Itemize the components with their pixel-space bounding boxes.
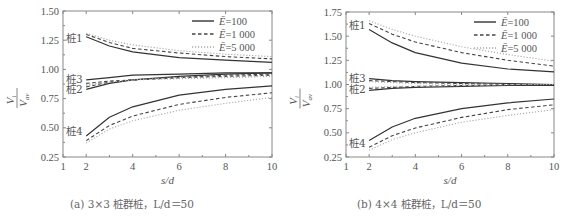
svg-text:Vav: Vav (300, 93, 314, 107)
svg-text:Vi: Vi (4, 96, 18, 105)
series-line-dotted (86, 97, 272, 143)
y-tick-label: 1.75 (324, 7, 342, 18)
x-tick-label: 10 (267, 161, 278, 172)
svg-text:Vi: Vi (287, 96, 301, 105)
x-tick-label: 6 (176, 161, 181, 172)
y-axis-title: ViVav (4, 88, 31, 108)
caption-b: (b) 4×4 桩群桩，L/d＝50 (357, 196, 481, 211)
pile-label: 桩4 (66, 125, 83, 137)
x-tick-label: 2 (366, 161, 371, 172)
pile-label: 桩2 (66, 83, 83, 95)
x-tick-label: 8 (223, 161, 228, 172)
y-tick-label: 1.50 (324, 31, 342, 42)
pile-label: 桩3 (349, 72, 366, 84)
y-tick-label: 0.50 (41, 122, 59, 133)
x-tick-label: 6 (459, 161, 464, 172)
pile-label: 桩1 (349, 19, 366, 31)
pile-label: 桩2 (349, 83, 366, 95)
y-tick-label: 1.00 (324, 79, 342, 90)
legend-label: Ē=100 (500, 17, 529, 28)
x-tick-label: 1 (60, 161, 65, 172)
series-line-dashed (369, 105, 554, 148)
pile-label: 桩1 (66, 32, 83, 44)
x-tick-label: 2 (84, 161, 89, 172)
legend-label: Ē=100 (218, 16, 247, 27)
chart-panel-b: 0.250.500.751.001.251.501.751246810s/dVi… (287, 7, 559, 187)
y-tick-label: 0.50 (324, 127, 342, 138)
x-tick-label: 4 (130, 161, 136, 172)
chart-panel-a: 0.250.500.751.001.251.501246810s/dViVav桩… (4, 6, 277, 187)
series-line-solid (86, 73, 272, 89)
figure: 0.250.500.751.001.251.501246810s/dViVav桩… (0, 0, 565, 219)
y-tick-label: 1.00 (41, 64, 59, 75)
legend-label: Ē=5 000 (218, 42, 255, 53)
y-tick-label: 0.25 (41, 152, 59, 163)
legend-label: Ē=1 000 (218, 29, 255, 40)
x-axis-title: s/d (161, 174, 174, 186)
series-line-solid (86, 86, 272, 136)
legend-label: Ē=5 000 (500, 43, 537, 54)
x-tick-label: 10 (549, 161, 560, 172)
y-tick-label: 0.75 (41, 93, 59, 104)
svg-text:Vav: Vav (17, 92, 31, 106)
series-line-dotted (369, 110, 554, 151)
y-tick-label: 1.25 (324, 55, 342, 66)
y-tick-label: 1.25 (41, 35, 59, 46)
pile-label: 桩4 (349, 137, 366, 149)
x-axis-title: s/d (444, 174, 457, 186)
y-tick-label: 1.50 (41, 6, 59, 17)
legend-label: Ē=1 000 (500, 30, 537, 41)
x-tick-label: 1 (343, 161, 348, 172)
series-line-dashed (86, 93, 272, 141)
caption-a: (a) 3×3 桩群桩，L/d＝50 (70, 196, 194, 211)
x-tick-label: 4 (413, 161, 419, 172)
x-tick-label: 8 (505, 161, 510, 172)
y-axis-title: ViVav (287, 89, 314, 109)
y-tick-label: 0.75 (324, 103, 342, 114)
y-tick-label: 0.25 (324, 152, 342, 163)
